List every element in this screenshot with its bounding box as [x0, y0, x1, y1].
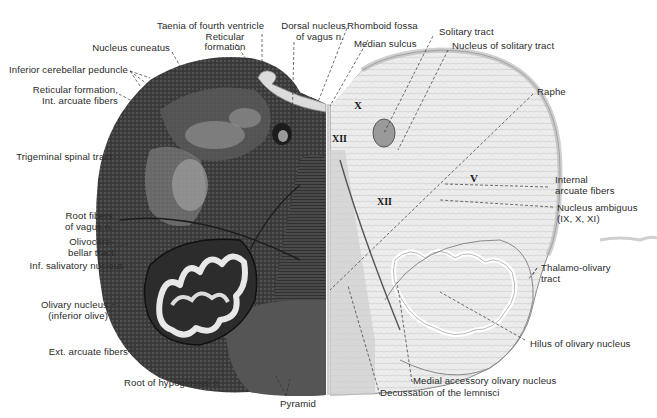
label-hilus-olivary-nucleus: Hilus of olivary nucleus — [530, 338, 631, 349]
label-nucleus-solitary-tract: Nucleus of solitary tract — [452, 40, 554, 51]
label-rhomboid-fossa: Rhomboid fossa — [347, 20, 418, 31]
label-taenia-fourth-ventricle: Taenia of fourth ventricle — [157, 20, 264, 31]
label-olivocerebellar-1: Olivocere- — [0, 236, 114, 247]
label-nucleus-ambiguus-1: Nucleus ambiguus — [557, 202, 638, 213]
label-inferior-cerebellar-peduncle: Inferior cerebellar peduncle — [0, 64, 128, 75]
label-root-hypoglossal: Root of hypoglossal n. — [124, 377, 221, 388]
stain-artifact — [600, 237, 657, 240]
left-half-dark — [96, 57, 326, 396]
label-thalamo-olivary-2: tract — [541, 273, 560, 284]
label-root-fibers-vagus-2: of vagus n. — [0, 221, 113, 232]
nerve-marker-v: V — [470, 172, 478, 184]
label-nucleus-cuneatus: Nucleus cuneatus — [30, 42, 170, 53]
label-reticular-formation-top-2: formation — [190, 41, 260, 52]
label-decussation-lemnisci: Decussation of the lemnisci — [380, 387, 499, 398]
label-pyramid: Pyramid — [280, 398, 316, 409]
label-ext-arcuate-fibers: Ext. arcuate fibers — [0, 346, 128, 357]
label-medial-accessory-olivary-nucleus: Medial accessory olivary nucleus — [413, 375, 556, 386]
label-olivary-nucleus-2: (inferior olive) — [0, 310, 108, 321]
label-root-fibers-vagus-1: Root fibers — [0, 210, 113, 221]
label-solitary-tract: Solitary tract — [439, 26, 494, 37]
label-dorsal-nucleus-vagus-1: Dorsal nucleus — [266, 20, 346, 31]
label-raphe: Raphe — [537, 86, 566, 97]
medulla-cross-section-figure: Taenia of fourth ventricle Reticular for… — [0, 0, 657, 418]
nerve-marker-xii-right: XII — [377, 196, 392, 207]
label-internal-arcuate-1: Internal — [555, 174, 588, 185]
label-trigeminal-spinal-tract: Trigeminal spinal tract — [0, 151, 112, 162]
label-median-sulcus: Median sulcus — [354, 38, 417, 49]
label-olivocerebellar-2: bellar tract — [0, 247, 114, 258]
label-thalamo-olivary-1: Thalamo-olivary — [541, 262, 611, 273]
label-dorsal-nucleus-vagus-2: of vagus n. — [266, 31, 344, 42]
label-reticular-formation-int-arcuate-2: Int. arcuate fibers — [0, 95, 118, 106]
label-reticular-formation-int-arcuate-1: Reticular formation, — [0, 84, 118, 95]
nerve-marker-xii-center: XII — [332, 133, 347, 144]
label-inf-salivatory-nucleus: Inf. salivatory nucleus — [0, 260, 124, 271]
right-half-light — [330, 50, 560, 395]
nerve-marker-x: X — [354, 99, 362, 111]
label-internal-arcuate-2: arcuate fibers — [555, 185, 615, 196]
label-olivary-nucleus-1: Olivary nucleus — [0, 299, 108, 310]
label-nucleus-ambiguus-2: (IX, X, XI) — [557, 213, 600, 224]
